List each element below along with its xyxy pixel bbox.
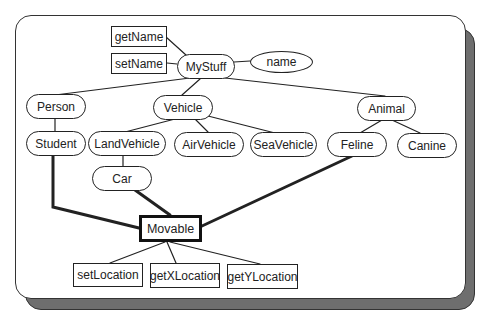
edge-mystuff-vehicle <box>182 79 200 95</box>
node-vehicle: Vehicle <box>153 95 213 120</box>
node-name: name <box>250 51 313 73</box>
node-landvehicle: LandVehicle <box>88 131 166 156</box>
node-feline: Feline <box>327 132 387 157</box>
node-getname: getName <box>111 26 167 47</box>
node-airvehicle: AirVehicle <box>174 132 244 157</box>
edge-setname-mystuff <box>167 63 177 64</box>
edge-mystuff-name <box>234 61 250 62</box>
edge-mystuff-animal <box>225 78 385 96</box>
edge-feline-movable <box>202 156 352 226</box>
node-setname: setName <box>111 53 167 74</box>
edge-vehicle-seavehicle <box>208 116 275 133</box>
node-canine: Canine <box>397 133 457 158</box>
node-person: Person <box>26 94 86 119</box>
node-movable: Movable <box>139 215 202 242</box>
edge-movable-setlocation <box>110 242 165 263</box>
edge-vehicle-airvehicle <box>195 119 208 132</box>
node-getylocation: getYLocation <box>227 264 298 289</box>
node-mystuff: MyStuff <box>177 54 235 79</box>
node-animal: Animal <box>357 96 416 121</box>
edge-movable-getxlocation <box>167 242 176 263</box>
edge-getname-mystuff <box>166 37 186 55</box>
edge-movable-getylocation <box>170 242 260 264</box>
node-seavehicle: SeaVehicle <box>250 132 317 157</box>
node-getxlocation: getXLocation <box>150 263 220 288</box>
edge-animal-canine <box>392 120 420 133</box>
node-setlocation: setLocation <box>73 263 143 287</box>
edge-car-movable <box>135 190 170 215</box>
edge-mystuff-person <box>55 78 190 95</box>
node-student: Student <box>26 131 86 156</box>
node-car: Car <box>92 166 152 191</box>
